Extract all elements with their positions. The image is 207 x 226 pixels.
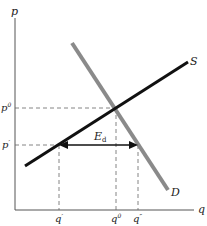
q0-label: q0 <box>111 212 121 224</box>
y-axis-label: p <box>11 5 18 18</box>
q-prime-label: q′ <box>55 213 63 224</box>
excess-demand-label: Ed <box>93 130 107 144</box>
supply-curve <box>25 62 188 166</box>
p0-label: p0 <box>1 101 11 113</box>
supply-demand-diagram: p q S D p0 p′ q′ q0 q″ Ed <box>0 0 207 226</box>
supply-label: S <box>190 55 198 68</box>
demand-curve <box>72 43 168 190</box>
x-axis-label: q <box>198 203 205 216</box>
p-prime-label: p′ <box>2 139 10 150</box>
q-double-prime-label: q″ <box>133 213 142 224</box>
demand-label: D <box>170 186 180 199</box>
